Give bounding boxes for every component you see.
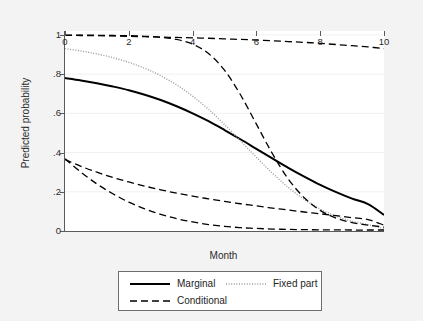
x-tick-label: 10: [379, 37, 390, 47]
y-tick-label: 0: [56, 226, 61, 236]
x-tick-label: 0: [62, 37, 67, 47]
legend-item-marginal[interactable]: Marginal: [129, 275, 215, 292]
data-curves: [65, 35, 384, 230]
legend-key-dashed-icon: [129, 295, 171, 307]
y-tick-label: .4: [53, 148, 61, 158]
y-tick-label: .8: [53, 69, 61, 79]
x-tick-label: 6: [254, 37, 259, 47]
curve-conditional-upper-flat: [65, 35, 384, 48]
legend-row-2: Conditional: [119, 292, 321, 309]
legend-label-conditional: Conditional: [177, 296, 227, 306]
x-tick-label: 2: [126, 37, 131, 47]
legend-label-fixed-part: Fixed part: [273, 279, 317, 289]
x-axis-title: Month: [64, 251, 383, 261]
curve-conditional-lower-fast: [65, 159, 384, 230]
y-axis-title: Predicted probability: [21, 43, 31, 203]
legend-item-conditional[interactable]: Conditional: [129, 292, 227, 309]
y-tick-label: .2: [53, 187, 61, 197]
y-tick-label: 1: [56, 30, 61, 40]
legend-key-dotted-icon: [225, 278, 267, 290]
plot-area: 0.2.4.6.81 0246810: [64, 31, 384, 232]
legend-item-fixed-part[interactable]: Fixed part: [225, 275, 317, 292]
x-tick-label: 4: [190, 37, 195, 47]
chart-legend: Marginal Fixed part Conditional: [118, 271, 322, 311]
figure-canvas: 0.2.4.6.81 0246810 Month Predicted proba…: [0, 0, 423, 321]
legend-key-solid-icon: [129, 278, 171, 290]
plot-svg: [65, 31, 384, 231]
x-tick-label: 8: [318, 37, 323, 47]
figure-inner-panel: 0.2.4.6.81 0246810 Month Predicted proba…: [8, 6, 415, 315]
gridlines: [65, 35, 384, 192]
legend-label-marginal: Marginal: [177, 279, 215, 289]
legend-row-1: Marginal Fixed part: [119, 275, 321, 292]
y-tick-label: .6: [53, 109, 61, 119]
